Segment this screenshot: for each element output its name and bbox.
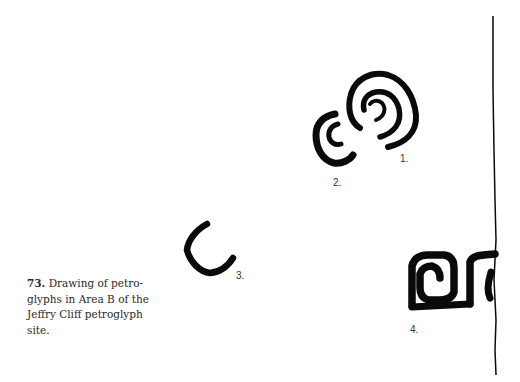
glyph-label-4: 4.	[410, 324, 418, 335]
glyph-4-square-spiral	[412, 254, 495, 307]
figure-number: 73.	[27, 277, 45, 289]
glyph-label-2: 2.	[333, 177, 341, 188]
glyph-1-concentric-spiral	[349, 74, 416, 147]
glyph-3-hook	[187, 224, 233, 273]
cliff-edge-line	[493, 16, 496, 375]
glyph-label-1: 1.	[400, 153, 408, 164]
figure-caption: 73. Drawing of petro- glyphs in Area B o…	[27, 276, 177, 338]
caption-line-4: site.	[27, 324, 50, 336]
glyph-2-nested-c	[316, 114, 353, 163]
caption-line-1: Drawing of petro-	[49, 277, 143, 289]
caption-line-3: Jeffry Cliff petroglyph	[27, 308, 143, 320]
glyph-label-3: 3.	[236, 270, 244, 281]
caption-line-2: glyphs in Area B of the	[27, 293, 149, 305]
